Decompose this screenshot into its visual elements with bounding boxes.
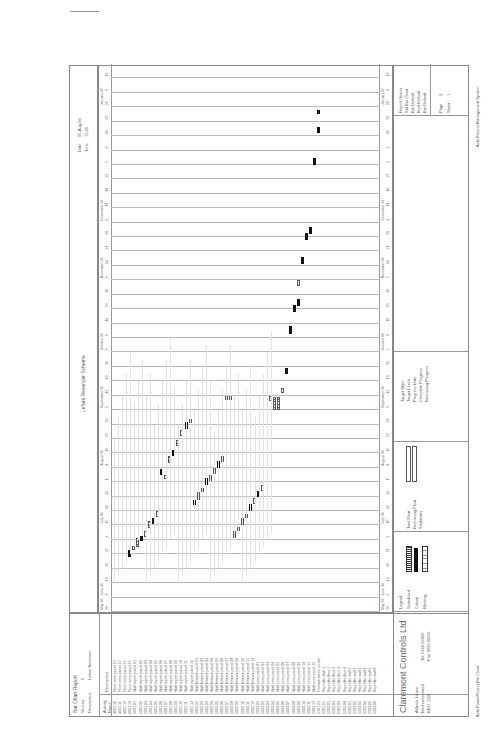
week-tick-label: 26 (386, 361, 390, 365)
timeline-axis-bottom: 2961320273101724181522295121926291623307… (379, 64, 392, 612)
progress-date-label: Progress Date (412, 376, 417, 402)
legend-block: Legend Scheduled Critical Working (394, 531, 468, 612)
float-line (198, 388, 199, 547)
float-line (150, 374, 151, 576)
month-label: September 96 (100, 386, 104, 408)
week-gridline (111, 597, 380, 598)
week-tick-label: 30 (105, 101, 109, 105)
week-tick-label: 29 (386, 606, 390, 610)
legend-critical-label: Critical (414, 597, 419, 609)
week-tick-label: 17 (105, 505, 109, 509)
scheme-title: Lefare Reservoir Scheme (81, 355, 86, 412)
date-label: Date (77, 144, 82, 152)
page-label: Page (438, 104, 443, 113)
month-label: January 97 (100, 88, 104, 105)
float-line (250, 367, 251, 569)
week-tick-label: 2 (386, 161, 390, 163)
week-tick-label: 23 (105, 116, 109, 120)
float-line (259, 396, 260, 555)
critical-bar (301, 257, 304, 264)
week-tick-label: 9 (386, 334, 390, 336)
week-gridline (111, 250, 380, 251)
week-tick-label: 13 (386, 73, 390, 77)
report-sheet: Bar Chart Report Version 0 Description L… (69, 65, 471, 717)
week-gridline (111, 121, 380, 122)
week-tick-label: 28 (386, 231, 390, 235)
description-label: Description (87, 693, 92, 713)
week-gridline (111, 582, 380, 583)
legend-working-swatch (422, 546, 428, 572)
week-tick-label: 3 (105, 536, 109, 538)
week-tick-label: 6 (105, 594, 109, 596)
software-caption: Asta PowerProject Bar Chart (475, 666, 480, 717)
week-tick-label: 20 (105, 563, 109, 567)
page-number: 2 (438, 94, 443, 96)
target-finish-label: Target Finish (406, 379, 411, 402)
critical-bar (140, 536, 143, 542)
float-line (174, 388, 175, 532)
date-value: 05-Aug-96 (77, 118, 82, 137)
week-tick-label: 8 (386, 464, 390, 466)
remaining-float-swatch (412, 446, 417, 482)
month-label: November 96 (100, 257, 104, 278)
critical-bar (305, 233, 308, 240)
week-tick-label: 29 (105, 419, 109, 423)
week-tick-label: 12 (105, 390, 109, 394)
float-line (138, 381, 139, 540)
report-option-3: Brief Default (416, 91, 421, 113)
week-tick-label: 10 (105, 520, 109, 524)
week-gridline (111, 106, 380, 107)
week-tick-label: 25 (386, 173, 390, 177)
critical-bar (293, 305, 296, 312)
legend-scheduled-label: Scheduled (406, 590, 411, 609)
week-tick-label: 27 (105, 548, 109, 552)
week-tick-label: 9 (105, 334, 109, 336)
float-line (271, 331, 272, 533)
month-label: September 96 (381, 386, 385, 408)
float-line (234, 396, 235, 540)
month-label: June 96 (381, 583, 385, 595)
float-line (218, 410, 219, 569)
week-tick-label: 9 (105, 147, 109, 149)
month-label: December 96 (100, 200, 104, 221)
week-tick-label: 18 (105, 188, 109, 192)
float-line (162, 381, 163, 554)
company-block: Claremont Controls Ltd Aldwick House Nor… (394, 611, 468, 716)
week-tick-label: 27 (386, 548, 390, 552)
float-line (267, 352, 268, 539)
chart-header: Lefare Reservoir Scheme Date 05-Aug-96 T… (69, 65, 98, 613)
week-tick-label: 21 (386, 246, 390, 250)
working-bar (297, 280, 300, 286)
month-label: December 96 (381, 200, 385, 221)
week-tick-label: 23 (386, 116, 390, 120)
company-name: Claremont Controls Ltd (398, 620, 408, 713)
timeline-axis-top: 2961320273101724181522295121926291623307… (99, 64, 112, 612)
week-tick-label: 23 (386, 303, 390, 307)
critical-bar (289, 326, 292, 333)
week-tick-label: 5 (386, 406, 390, 408)
complete-progress-label: Complete Progress (418, 368, 423, 402)
report-option-4: Bar Default (422, 93, 427, 113)
report-option-1: Std Bar Chart (404, 89, 409, 113)
float-line (118, 417, 119, 576)
week-tick-label: 19 (105, 375, 109, 379)
week-tick-label: 29 (386, 419, 390, 423)
week-tick-label: 13 (386, 577, 390, 581)
month-label: July 96 (100, 512, 104, 523)
float-line (226, 367, 227, 554)
version-label: Version (80, 700, 85, 713)
week-gridline (111, 366, 380, 367)
week-gridline (111, 236, 380, 237)
float-line (178, 425, 179, 584)
week-gridline (111, 380, 380, 381)
week-gridline (111, 611, 380, 612)
target-legend-block: Target Start Target Finish Progress Date… (394, 351, 468, 442)
week-gridline (111, 164, 380, 165)
week-tick-label: 9 (386, 147, 390, 149)
week-gridline (111, 308, 380, 309)
week-tick-label: 13 (105, 73, 109, 77)
float-line (214, 432, 215, 576)
legend-working-label: Working (422, 594, 427, 609)
target-start-label: Target Start (400, 381, 405, 402)
week-tick-label: 4 (386, 219, 390, 221)
